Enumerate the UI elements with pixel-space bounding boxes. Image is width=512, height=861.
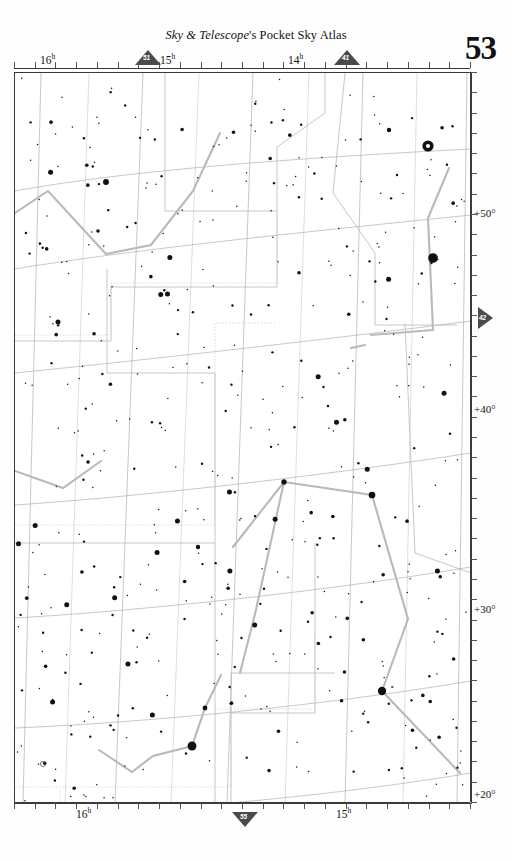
tick-right (471, 417, 477, 418)
ra-label-top: 16h (40, 52, 55, 66)
tick-top (76, 62, 77, 68)
tick-right (471, 133, 477, 134)
tick-right (471, 701, 477, 702)
tick-bottom (366, 803, 367, 809)
boundary-lines (15, 73, 471, 803)
tick-right (471, 214, 477, 215)
tick-bottom (201, 803, 202, 809)
tick-top (138, 62, 139, 68)
nav-chart-55[interactable]: 55 (232, 812, 258, 827)
tick-bottom (76, 803, 77, 809)
tick-top (14, 62, 15, 68)
tick-bottom (387, 803, 388, 809)
tick-bottom (346, 803, 347, 809)
tick-top (470, 62, 471, 68)
tick-bottom (118, 803, 119, 809)
tick-top (449, 62, 450, 68)
dec-label: +20° (474, 788, 496, 800)
constellation-figure-lines (15, 133, 460, 773)
tick-bottom (180, 803, 181, 809)
tick-top (118, 62, 119, 68)
tick-right (471, 234, 477, 235)
tick-right (471, 356, 477, 357)
tick-top (387, 62, 388, 68)
tick-bottom (55, 803, 56, 809)
publisher-suffix: 's Pocket Sky Atlas (249, 28, 347, 42)
tick-bottom (159, 803, 160, 809)
ra-label-top: 14h (288, 52, 303, 66)
tick-right (471, 194, 477, 195)
tick-right (471, 173, 477, 174)
tick-bottom (221, 803, 222, 809)
ra-meridian-lines (23, 73, 467, 803)
tick-top (429, 62, 430, 68)
tick-top (55, 62, 56, 68)
tick-top (242, 62, 243, 68)
tick-right (471, 761, 477, 762)
tick-right (471, 538, 477, 539)
tick-right (471, 275, 477, 276)
tick-bottom (263, 803, 264, 809)
tick-bottom (283, 803, 284, 809)
page-number: 53 (465, 32, 496, 65)
tick-top (283, 62, 284, 68)
tick-top (97, 62, 98, 68)
tick-right (471, 518, 477, 519)
tick-bottom (14, 803, 15, 809)
tick-right (471, 315, 477, 316)
nav-marker-label: 41 (342, 54, 349, 61)
publisher-name: Sky & Telescope (165, 28, 249, 42)
tick-right (471, 660, 477, 661)
dec-label: +50° (474, 207, 496, 219)
tick-right (471, 457, 477, 458)
tick-bottom (138, 803, 139, 809)
nav-marker-label: 42 (479, 314, 486, 321)
tick-bottom (325, 803, 326, 809)
tick-top (408, 62, 409, 68)
tick-right (471, 741, 477, 742)
star-chart-plate[interactable] (14, 72, 472, 804)
tick-right (471, 437, 477, 438)
tick-right (471, 92, 477, 93)
tick-right (471, 680, 477, 681)
tick-right (471, 295, 477, 296)
ra-label-bottom: 16h (76, 806, 91, 820)
tick-right (471, 153, 477, 154)
tick-right (471, 640, 477, 641)
tick-right (471, 579, 477, 580)
ra-label-bottom: 15h (336, 806, 351, 820)
tick-top (201, 62, 202, 68)
star-map[interactable] (15, 73, 471, 803)
tick-right (471, 478, 477, 479)
tick-top (35, 62, 36, 68)
tick-bottom (304, 803, 305, 809)
tick-top (325, 62, 326, 68)
tick-top (304, 62, 305, 68)
tick-right (471, 620, 477, 621)
page-title: Sky & Telescope's Pocket Sky Atlas (0, 28, 512, 43)
tick-right (471, 559, 477, 560)
tick-right (471, 336, 477, 337)
tick-bottom (408, 803, 409, 809)
tick-right (471, 782, 477, 783)
nav-chart-41[interactable]: 41 (334, 50, 360, 65)
tick-right (471, 376, 477, 377)
tick-bottom (470, 803, 471, 809)
tick-top (221, 62, 222, 68)
tick-top (263, 62, 264, 68)
constellation-boundary-lines (15, 215, 315, 803)
dec-label: +40° (474, 403, 496, 415)
nav-chart-42[interactable]: 42 (478, 307, 493, 329)
tick-right (471, 113, 477, 114)
tick-bottom (449, 803, 450, 809)
tick-right (471, 498, 477, 499)
tick-right (471, 721, 477, 722)
tick-right (471, 396, 477, 397)
tick-right (471, 802, 477, 803)
nav-marker-label: 55 (240, 813, 247, 820)
tick-bottom (429, 803, 430, 809)
tick-top (180, 62, 181, 68)
tick-bottom (242, 803, 243, 809)
nav-marker-label: 51 (143, 54, 150, 61)
tick-right (471, 599, 477, 600)
